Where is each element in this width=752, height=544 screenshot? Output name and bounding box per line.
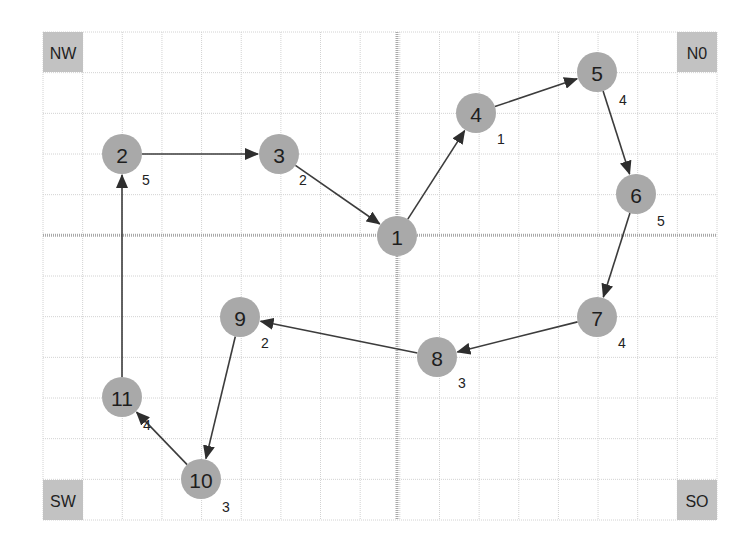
edge-6-to-7: [603, 213, 630, 297]
weight-label-node-9: 2: [261, 335, 269, 351]
weight-label-node-8: 3: [458, 375, 466, 391]
node-label: 11: [111, 387, 133, 410]
node-10[interactable]: 10: [181, 459, 221, 499]
node-label: 10: [189, 469, 212, 492]
route-diagram: NWN0SWSO 1234567891011 5214543234: [0, 0, 752, 544]
corner-label: SW: [50, 493, 77, 510]
corner-so: SO: [677, 480, 717, 520]
node-label: 2: [116, 144, 128, 167]
node-8[interactable]: 8: [417, 337, 457, 377]
weight-label-node-6: 5: [657, 213, 665, 229]
corner-label: NW: [50, 45, 78, 62]
weight-label-node-11: 4: [143, 417, 151, 433]
node-label: 9: [234, 307, 246, 330]
node-label: 5: [591, 62, 603, 85]
node-4[interactable]: 4: [456, 93, 496, 133]
corner-sw: SW: [43, 480, 83, 520]
corner-label: SO: [685, 493, 708, 510]
node-7[interactable]: 7: [577, 297, 617, 337]
edge-9-to-10: [206, 336, 235, 458]
node-1[interactable]: 1: [377, 216, 417, 256]
edge-7-to-8: [457, 322, 577, 352]
node-label: 8: [431, 347, 443, 370]
weight-label-node-2: 5: [142, 172, 150, 188]
node-6[interactable]: 6: [616, 174, 656, 214]
weight-label-node-3: 2: [299, 172, 307, 188]
grid: [43, 32, 717, 520]
node-3[interactable]: 3: [259, 134, 299, 174]
node-9[interactable]: 9: [220, 297, 260, 337]
node-label: 4: [470, 103, 482, 126]
weight-label-node-4: 1: [497, 131, 505, 147]
edge-1-to-4: [408, 131, 465, 220]
node-5[interactable]: 5: [577, 52, 617, 92]
corner-label: N0: [687, 45, 708, 62]
edges: [122, 79, 630, 465]
weight-label-node-10: 3: [222, 499, 230, 515]
corner-no: N0: [677, 32, 717, 72]
node-label: 6: [630, 184, 642, 207]
node-2[interactable]: 2: [102, 134, 142, 174]
node-11[interactable]: 11: [102, 377, 142, 417]
weight-label-node-7: 4: [618, 335, 626, 351]
edge-8-to-9: [261, 321, 418, 353]
node-label: 3: [273, 144, 285, 167]
edge-4-to-5: [495, 79, 577, 107]
corner-nw: NW: [43, 32, 83, 72]
weight-label-node-5: 4: [619, 92, 627, 108]
node-label: 1: [391, 226, 403, 249]
node-label: 7: [591, 307, 603, 330]
